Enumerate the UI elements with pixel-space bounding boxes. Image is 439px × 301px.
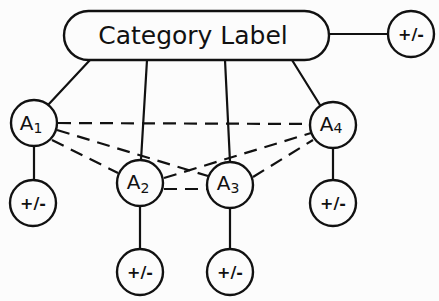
dashed-edge-a1-a4	[58, 123, 310, 124]
node-a3-modifier-label: +/-	[217, 263, 243, 282]
category-diagram: Category Label +/- A1 +/- A2 +/- A3 +/- …	[0, 0, 439, 301]
edge-category-a2	[141, 60, 147, 160]
node-a3-modifier[interactable]: +/-	[207, 249, 253, 295]
node-a1-letter: A	[20, 111, 34, 135]
dashed-edges	[52, 123, 313, 189]
node-a1[interactable]: A1	[11, 100, 57, 146]
node-a3-letter: A	[217, 171, 231, 195]
category-modifier-label: +/-	[398, 25, 424, 44]
edge-category-a4	[292, 60, 320, 105]
node-a3[interactable]: A3	[207, 162, 253, 208]
node-a2-letter: A	[127, 170, 141, 194]
category-modifier-node[interactable]: +/-	[388, 11, 434, 57]
node-a1-subscript: 1	[33, 120, 42, 136]
node-a4-modifier[interactable]: +/-	[310, 180, 356, 226]
node-a1-modifier-label: +/-	[20, 194, 46, 213]
edge-category-a1	[48, 60, 90, 105]
node-a2-subscript: 2	[140, 180, 149, 196]
node-a4-letter: A	[320, 112, 334, 136]
node-a1-modifier[interactable]: +/-	[10, 180, 56, 226]
dashed-edge-a3-a4	[253, 140, 313, 177]
node-a4[interactable]: A4	[310, 102, 356, 148]
node-a2-modifier[interactable]: +/-	[117, 249, 163, 295]
node-a3-subscript: 3	[230, 180, 239, 196]
category-label: Category Label	[98, 21, 288, 50]
node-a2-modifier-label: +/-	[127, 263, 153, 282]
edge-category-a3	[225, 60, 230, 162]
node-a4-subscript: 4	[333, 120, 342, 136]
node-a2[interactable]: A2	[117, 160, 163, 206]
node-a4-modifier-label: +/-	[320, 194, 346, 213]
category-node[interactable]: Category Label	[64, 11, 329, 60]
